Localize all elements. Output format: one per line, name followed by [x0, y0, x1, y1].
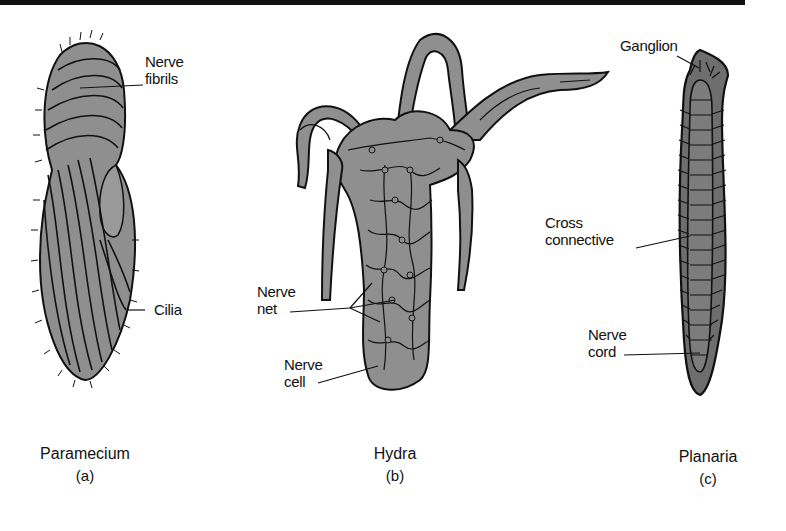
- hydra-drawing: [297, 34, 608, 390]
- organism-name: Hydra: [374, 445, 417, 462]
- nerve-cord-label: Nerve cord: [588, 326, 627, 360]
- panel-letter: (a): [15, 465, 155, 487]
- caption-hydra: Hydra (b): [325, 443, 465, 487]
- nerve-fibrils-label: Nerve fibrils: [145, 53, 184, 87]
- cilia-label: Cilia: [154, 301, 182, 318]
- organism-name: Paramecium: [40, 445, 130, 462]
- cross-connective-label: Cross connective: [545, 214, 614, 248]
- organism-name: Planaria: [679, 448, 738, 465]
- nerve-cell-label: Nerve cell: [284, 356, 323, 390]
- nerve-net-label: Nerve net: [257, 283, 296, 317]
- panel-letter: (c): [638, 468, 778, 490]
- panel-letter: (b): [325, 465, 465, 487]
- planaria-drawing: [678, 50, 728, 395]
- ganglion-label: Ganglion: [620, 37, 678, 54]
- caption-paramecium: Paramecium (a): [15, 443, 155, 487]
- caption-planaria: Planaria (c): [638, 446, 778, 490]
- paramecium-drawing: [31, 30, 139, 388]
